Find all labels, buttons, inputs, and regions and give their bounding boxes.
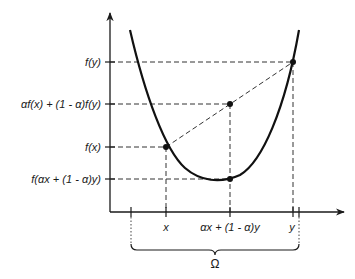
point-y-fy (290, 59, 296, 65)
label-fy: f(y) (85, 56, 101, 68)
label-y: y (288, 221, 296, 233)
label-omega: Ω (211, 257, 220, 271)
omega-brace (131, 244, 299, 255)
label-chord-value: αf(x) + (1 - α)f(y) (21, 98, 101, 110)
label-x: x (162, 221, 169, 233)
point-combo-f (227, 176, 233, 182)
point-chord (227, 101, 233, 107)
convex-curve (130, 30, 299, 180)
label-fx: f(x) (85, 141, 101, 153)
label-fcombo: f(αx + (1 - α)y) (31, 173, 101, 185)
label-xcombo: αx + (1 - α)y (200, 221, 261, 233)
convexity-diagram: f(y) αf(x) + (1 - α)f(y) f(x) f(αx + (1 … (0, 0, 355, 279)
point-x-fx (163, 144, 169, 150)
